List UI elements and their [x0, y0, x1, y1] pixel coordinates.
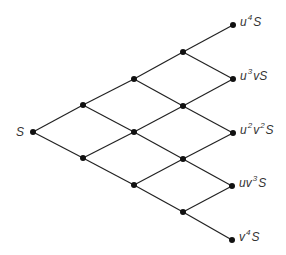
tree-node — [80, 155, 86, 161]
label-exponent: 4 — [246, 228, 250, 237]
tree-edge — [83, 105, 134, 132]
tree-edge — [183, 52, 233, 79]
tree-node — [230, 22, 236, 28]
tree-edge — [183, 106, 233, 133]
label-base: u — [240, 123, 247, 137]
label-tail: S — [259, 69, 267, 83]
tree-edge — [183, 212, 232, 240]
tree-node — [180, 49, 186, 55]
tree-node — [180, 156, 186, 162]
tree-nodes — [30, 22, 236, 243]
label-exponent: 3 — [253, 174, 257, 183]
tree-edge — [183, 159, 232, 186]
tree-edge — [183, 186, 232, 212]
tree-edge — [183, 25, 233, 52]
terminal-label-uv3s: uv3S — [239, 177, 266, 189]
label-base: v — [239, 230, 245, 244]
label-exponent: 3 — [248, 67, 252, 76]
tree-edge — [134, 79, 183, 106]
tree-edge — [134, 185, 183, 212]
label-base: u — [240, 15, 247, 29]
root-label: S — [16, 126, 24, 138]
tree-edge — [83, 132, 134, 158]
tree-node — [180, 103, 186, 109]
tree-node — [30, 129, 36, 135]
label-base: uv — [239, 176, 252, 190]
tree-node — [229, 237, 235, 243]
tree-edge — [183, 79, 233, 106]
tree-edge — [83, 158, 134, 185]
tree-node — [230, 76, 236, 82]
tree-edge — [33, 105, 83, 132]
tree-edge — [83, 79, 134, 105]
terminal-label-u4s: u4S — [240, 16, 261, 28]
label-exponent-2: 2 — [260, 121, 264, 130]
label-tail: S — [266, 123, 274, 137]
tree-node — [131, 129, 137, 135]
label-exponent: 2 — [248, 121, 252, 130]
label-rest: v — [253, 123, 259, 137]
tree-node — [80, 102, 86, 108]
tree-edge — [33, 132, 83, 158]
tree-edge — [134, 106, 183, 132]
label-tail: S — [253, 15, 261, 29]
terminal-label-u3vs: u3vS — [240, 70, 267, 82]
terminal-label-u2v2s: u2v2S — [240, 124, 274, 136]
tree-node — [131, 182, 137, 188]
tree-node — [180, 209, 186, 215]
tree-edge — [134, 132, 183, 159]
label-base: u — [240, 69, 247, 83]
label-exponent: 4 — [248, 13, 252, 22]
label-tail: S — [251, 230, 259, 244]
tree-edge — [183, 133, 233, 159]
tree-node — [230, 130, 236, 136]
tree-node — [229, 183, 235, 189]
terminal-label-v4s: v4S — [239, 231, 259, 243]
tree-node — [131, 76, 137, 82]
tree-edge — [134, 52, 183, 79]
tree-edge — [134, 159, 183, 185]
label-tail: S — [258, 176, 266, 190]
